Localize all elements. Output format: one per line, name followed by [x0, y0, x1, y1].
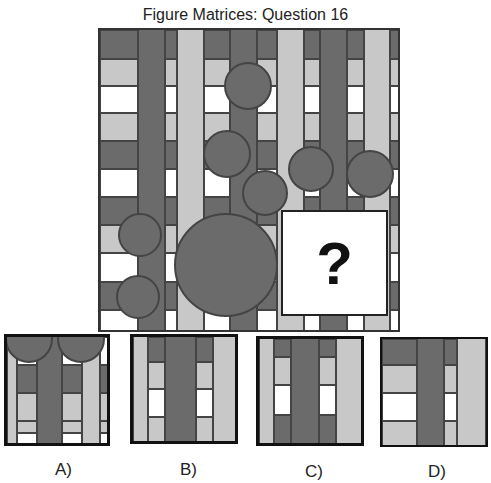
- band-cell: [347, 86, 364, 113]
- band-cell: [274, 357, 291, 385]
- band-cell: [100, 30, 138, 59]
- band-cell: [165, 59, 177, 86]
- band-cell: [304, 30, 320, 59]
- band-cell: [382, 365, 417, 393]
- band-cell: [100, 365, 110, 393]
- option-d[interactable]: [380, 337, 488, 447]
- band-cell: [17, 433, 37, 446]
- band-cell: [165, 169, 177, 197]
- circle-shape: [224, 62, 272, 110]
- vertical-stripe: [165, 335, 196, 444]
- band-cell: [17, 365, 37, 393]
- circle-shape: [203, 130, 251, 178]
- option-c-label: C): [305, 462, 323, 482]
- band-cell: [304, 59, 320, 86]
- vertical-stripe: [133, 335, 148, 444]
- band-cell: [444, 421, 457, 447]
- band-cell: [486, 339, 488, 365]
- band-cell: [486, 393, 488, 421]
- band-cell: [165, 197, 177, 225]
- option-c[interactable]: [256, 336, 364, 446]
- band-cell: [390, 113, 400, 141]
- option-a[interactable]: [4, 334, 110, 446]
- circle-shape: [116, 275, 160, 319]
- band-cell: [100, 141, 138, 169]
- band-cell: [390, 197, 400, 225]
- band-cell: [257, 113, 277, 141]
- band-cell: [62, 433, 82, 446]
- band-cell: [165, 113, 177, 141]
- band-cell: [444, 339, 457, 365]
- missing-piece-box: ?: [281, 210, 388, 316]
- band-cell: [165, 30, 177, 59]
- option-d-label: D): [428, 462, 446, 482]
- band-cell: [274, 415, 291, 446]
- band-cell: [165, 86, 177, 113]
- band-cell: [390, 59, 400, 86]
- band-cell: [347, 113, 364, 141]
- band-cell: [390, 225, 400, 253]
- band-cell: [100, 59, 138, 86]
- band-cell: [257, 141, 277, 169]
- band-cell: [196, 337, 213, 362]
- band-cell: [444, 365, 457, 393]
- circle-shape: [288, 146, 334, 192]
- band-cell: [304, 86, 320, 113]
- band-cell: [257, 30, 277, 59]
- band-cell: [390, 253, 400, 282]
- circle-shape: [118, 213, 162, 257]
- vertical-stripe: [336, 337, 364, 446]
- band-cell: [148, 389, 165, 417]
- band-cell: [382, 339, 417, 365]
- vertical-stripe: [291, 337, 319, 446]
- band-cell: [486, 365, 488, 393]
- band-cell: [347, 59, 364, 86]
- vertical-stripe: [457, 337, 486, 447]
- page-title: Figure Matrices: Question 16: [0, 6, 491, 24]
- band-cell: [204, 30, 230, 59]
- band-cell: [100, 113, 138, 141]
- band-cell: [390, 30, 400, 59]
- option-b-label: B): [180, 460, 197, 480]
- band-cell: [304, 113, 320, 141]
- band-cell: [100, 433, 110, 446]
- band-cell: [17, 393, 37, 421]
- band-cell: [100, 393, 110, 421]
- band-cell: [196, 362, 213, 389]
- band-cell: [274, 385, 291, 415]
- vertical-stripe: [417, 337, 444, 447]
- band-cell: [319, 415, 336, 446]
- band-cell: [165, 310, 177, 332]
- band-cell: [100, 169, 138, 197]
- band-cell: [390, 86, 400, 113]
- circle-shape: [346, 150, 394, 198]
- band-cell: [382, 393, 417, 421]
- option-a-label: A): [55, 460, 72, 480]
- figure-matrix: ?: [98, 28, 400, 332]
- band-cell: [196, 389, 213, 417]
- band-cell: [196, 417, 213, 444]
- band-cell: [165, 282, 177, 310]
- band-cell: [347, 30, 364, 59]
- band-cell: [319, 385, 336, 415]
- band-cell: [148, 362, 165, 389]
- circle-shape: [174, 213, 278, 317]
- option-b[interactable]: [130, 334, 238, 444]
- band-cell: [390, 282, 400, 310]
- band-cell: [165, 225, 177, 253]
- band-cell: [100, 86, 138, 113]
- band-cell: [382, 421, 417, 447]
- band-cell: [486, 421, 488, 447]
- band-cell: [148, 417, 165, 444]
- band-cell: [274, 339, 291, 357]
- band-cell: [62, 365, 82, 393]
- band-cell: [390, 310, 400, 332]
- band-cell: [444, 393, 457, 421]
- band-cell: [319, 357, 336, 385]
- band-cell: [100, 421, 110, 433]
- band-cell: [17, 421, 37, 433]
- vertical-stripe: [259, 337, 274, 446]
- band-cell: [148, 337, 165, 362]
- band-cell: [319, 339, 336, 357]
- band-cell: [62, 393, 82, 421]
